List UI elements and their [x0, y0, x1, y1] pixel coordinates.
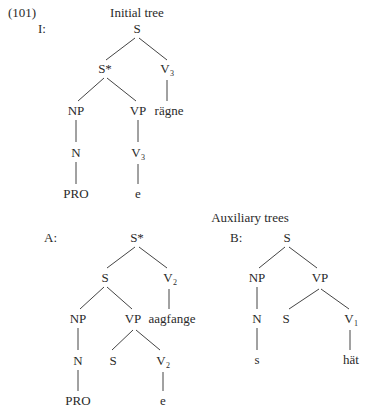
node-n: N: [71, 145, 81, 160]
node-s-low: S: [282, 311, 289, 326]
leaf-s: s: [254, 352, 259, 367]
edge: [80, 287, 104, 309]
edge: [259, 247, 285, 268]
edge: [112, 330, 133, 350]
initial-tree-heading: Initial tree: [110, 5, 164, 20]
tree-diagram: (101) Initial tree I: S S* V 3 NP VP räg…: [0, 0, 378, 416]
edge: [107, 287, 132, 309]
svg-text:2: 2: [166, 361, 170, 370]
svg-text:1: 1: [354, 319, 358, 328]
auxiliary-tree-b: B: S NP VP N S V 1 s hät: [230, 230, 359, 367]
node-vp: VP: [312, 270, 329, 285]
node-v2-top: V 2: [163, 270, 177, 287]
node-s: S: [101, 270, 108, 285]
edge: [139, 38, 167, 60]
node-np: NP: [249, 270, 266, 285]
node-v2-low: V 2: [156, 353, 170, 370]
leaf-pro: PRO: [65, 393, 90, 408]
edge: [107, 78, 136, 101]
node-np: NP: [68, 103, 85, 118]
edge: [289, 247, 317, 268]
node-n: N: [73, 353, 83, 368]
node-s-root: S: [133, 21, 140, 36]
svg-text:V: V: [163, 270, 173, 285]
node-s-star-root: S*: [130, 230, 144, 245]
node-v3-low: V 3: [131, 145, 145, 162]
svg-text:2: 2: [173, 278, 177, 287]
edge: [289, 289, 319, 309]
node-n: N: [252, 311, 262, 326]
svg-text:3: 3: [141, 153, 145, 162]
leaf-hat: hät: [343, 352, 359, 367]
leaf-aagfange: aagfange: [149, 311, 196, 326]
edge: [321, 289, 349, 309]
node-v1: V 1: [344, 311, 358, 328]
svg-text:V: V: [344, 311, 354, 326]
edge: [107, 247, 135, 268]
edge: [136, 330, 160, 350]
leaf-ragne: rägne: [155, 103, 184, 118]
example-number: (101): [8, 5, 36, 20]
auxiliary-trees-heading: Auxiliary trees: [211, 210, 289, 225]
leaf-pro: PRO: [63, 186, 88, 201]
edge: [139, 247, 167, 268]
svg-text:V: V: [156, 353, 166, 368]
edge: [106, 38, 135, 60]
auxiliary-tree-a: A: S* S V 2 NP VP aagfange N S V 2 PRO e: [44, 230, 196, 408]
aux-tree-a-tag: A:: [44, 230, 57, 245]
svg-text:3: 3: [170, 69, 174, 78]
edge: [78, 78, 104, 101]
node-s-star: S*: [98, 61, 112, 76]
leaf-e: e: [160, 393, 166, 408]
initial-tree: I: S S* V 3 NP VP rägne N V 3 PRO e: [38, 21, 184, 201]
aux-tree-b-tag: B:: [230, 230, 242, 245]
svg-text:V: V: [160, 61, 170, 76]
node-s-low: S: [109, 353, 116, 368]
node-s-root: S: [283, 230, 290, 245]
node-vp: VP: [125, 311, 142, 326]
node-np: NP: [70, 311, 87, 326]
leaf-e: e: [135, 186, 141, 201]
node-v3-top: V 3: [160, 61, 174, 78]
node-vp: VP: [130, 103, 147, 118]
svg-text:V: V: [131, 145, 141, 160]
initial-tree-tag: I:: [38, 21, 46, 36]
